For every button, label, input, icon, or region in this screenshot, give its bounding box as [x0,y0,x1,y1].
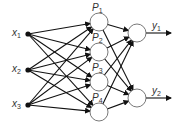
hidden-node-P3 [90,73,108,91]
nodes [25,13,146,121]
output-node-y1 [128,24,146,42]
node-label-P2: P2 [92,32,103,44]
node-label-y1: y1 [151,20,161,32]
hidden-node-P2 [90,43,108,61]
connection-edge [28,34,90,50]
input-node-x2 [25,67,30,72]
connection-edge [28,34,92,77]
input-node-x3 [25,102,30,107]
node-label-x1: x1 [11,27,21,39]
connection-edge [28,105,90,111]
output-node-y2 [128,89,146,107]
node-label-x2: x2 [11,63,21,75]
hidden-node-P4 [90,103,108,121]
connection-edge [28,27,92,70]
neural-network-diagram: x1x2x3P1P2P3P4y1y2 [0,0,180,132]
connection-edge [28,23,90,34]
node-label-P3: P3 [92,62,103,74]
connection-edge [28,57,92,105]
hidden-node-P1 [90,13,108,31]
input-node-x1 [25,31,30,36]
node-label-P1: P1 [92,2,103,14]
node-label-x3: x3 [11,98,21,110]
node-label-P4: P4 [92,92,103,104]
node-label-y2: y2 [151,85,161,97]
